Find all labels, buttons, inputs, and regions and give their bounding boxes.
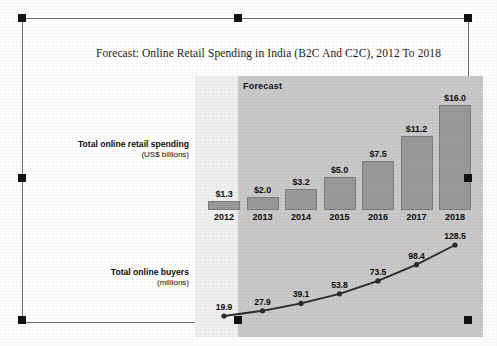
line-data-point bbox=[414, 262, 419, 267]
bar-value-label: $3.2 bbox=[282, 177, 320, 187]
bar-group: $1.32012 bbox=[205, 76, 243, 226]
bar-value-label: $7.5 bbox=[359, 149, 397, 159]
bar-group: $3.22014 bbox=[282, 76, 320, 226]
bar-value-label: $2.0 bbox=[244, 185, 282, 195]
bar-year-label: 2014 bbox=[282, 212, 320, 222]
bar-series: $1.32012$2.02013$3.22014$5.02015$7.52016… bbox=[195, 76, 483, 226]
line-value-label: 39.1 bbox=[293, 289, 310, 299]
resize-handle-top-left[interactable] bbox=[18, 14, 26, 22]
resize-handle-bottom-right[interactable] bbox=[464, 316, 472, 324]
line-value-label: 27.9 bbox=[254, 297, 271, 307]
bar-group: $2.02013 bbox=[244, 76, 282, 226]
bar-rect bbox=[285, 189, 317, 210]
bar-year-label: 2018 bbox=[436, 212, 474, 222]
bar-rect bbox=[362, 161, 394, 210]
line-data-point bbox=[221, 313, 226, 318]
bar-year-label: 2017 bbox=[398, 212, 436, 222]
chart-title: Forecast: Online Retail Spending in Indi… bbox=[46, 38, 491, 59]
bar-rect bbox=[208, 201, 240, 210]
line-data-point bbox=[260, 308, 265, 313]
line-value-label: 73.5 bbox=[370, 267, 387, 277]
bar-group: $5.02015 bbox=[321, 76, 359, 226]
spending-axis-label: Total online retail spending (US$ billio… bbox=[41, 139, 189, 160]
line-data-point bbox=[298, 301, 303, 306]
resize-handle-bottom-left[interactable] bbox=[18, 316, 26, 324]
resize-handle-middle-right[interactable] bbox=[464, 174, 472, 182]
line-data-point bbox=[452, 242, 457, 247]
line-value-label: 53.8 bbox=[331, 280, 348, 290]
bar-rect bbox=[439, 105, 471, 210]
bar-value-label: $1.3 bbox=[205, 189, 243, 199]
bar-rect bbox=[401, 136, 433, 210]
resize-handle-middle-left[interactable] bbox=[18, 174, 26, 182]
bar-year-label: 2012 bbox=[205, 212, 243, 222]
bar-group: $7.52016 bbox=[359, 76, 397, 226]
resize-handle-top-right[interactable] bbox=[464, 14, 472, 22]
bar-rect bbox=[247, 197, 279, 210]
spending-axis-unit: (US$ billions) bbox=[41, 150, 189, 160]
bar-year-label: 2016 bbox=[359, 212, 397, 222]
spending-axis-title: Total online retail spending bbox=[78, 139, 189, 149]
buyers-axis-title: Total online buyers bbox=[111, 267, 189, 277]
bar-rect bbox=[324, 177, 356, 210]
bar-value-label: $5.0 bbox=[321, 165, 359, 175]
resize-handle-top-center[interactable] bbox=[234, 14, 242, 22]
line-value-label: 19.9 bbox=[216, 302, 233, 312]
line-value-label: 98.4 bbox=[408, 251, 425, 261]
line-value-label: 128.5 bbox=[444, 231, 466, 241]
line-data-point bbox=[337, 291, 342, 296]
bar-value-label: $11.2 bbox=[398, 124, 436, 134]
line-data-point bbox=[375, 278, 380, 283]
figure-frame[interactable]: Forecast: Online Retail Spending in Indi… bbox=[22, 18, 469, 323]
bar-value-label: $16.0 bbox=[436, 93, 474, 103]
resize-handle-bottom-center[interactable] bbox=[234, 316, 242, 324]
buyers-axis-label: Total online buyers (millions) bbox=[41, 267, 189, 288]
bar-group: $11.22017 bbox=[398, 76, 436, 226]
bar-year-label: 2013 bbox=[244, 212, 282, 222]
bar-group: $16.02018 bbox=[436, 76, 474, 226]
buyers-axis-unit: (millions) bbox=[41, 278, 189, 288]
bar-year-label: 2015 bbox=[321, 212, 359, 222]
